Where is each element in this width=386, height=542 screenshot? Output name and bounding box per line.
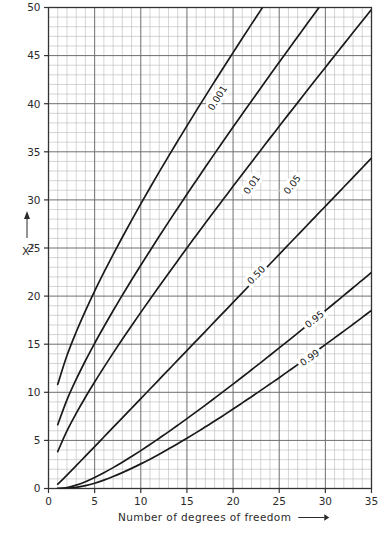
- x-tick-label: 15: [180, 495, 193, 507]
- x-tick-label: 25: [273, 495, 286, 507]
- chi-square-chart: 0.0010.010.050.500.950.99 05101520253035…: [0, 0, 386, 542]
- x-tick-label: 5: [91, 495, 98, 507]
- x-axis-title-text: Number of degrees of freedom: [118, 511, 291, 523]
- x-tick-label: 35: [365, 495, 378, 507]
- y-tick-label: 0: [34, 482, 41, 494]
- y-tick-label: 45: [27, 49, 40, 61]
- y-tick-label: 30: [27, 194, 40, 206]
- chart-canvas: 0.0010.010.050.500.950.99 05101520253035…: [0, 0, 386, 542]
- y-tick-label: 10: [27, 386, 40, 398]
- y-tick-label: 35: [27, 146, 40, 158]
- y-tick-label: 15: [27, 338, 40, 350]
- y-axis-title-text: X: [22, 245, 30, 258]
- y-tick-label: 20: [27, 290, 40, 302]
- x-tick-label: 0: [45, 495, 52, 507]
- y-tick-label: 40: [27, 98, 40, 110]
- x-tick-label: 20: [226, 495, 239, 507]
- y-axis-title-exponent: 2: [30, 243, 34, 251]
- y-tick-label: 50: [27, 1, 40, 13]
- x-tick-label: 30: [319, 495, 332, 507]
- y-tick-label: 5: [34, 434, 41, 446]
- x-tick-label: 10: [134, 495, 147, 507]
